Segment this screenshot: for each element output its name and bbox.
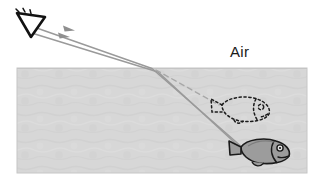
eye [16,8,45,37]
lower-ray-arrowhead [58,33,70,39]
upper-ray-arrowhead [63,26,75,32]
real-fish-pupil [279,147,281,149]
ray-direction-arrows [58,26,75,39]
refraction-figure: Air [0,0,320,177]
eye-outline-icon [17,13,45,37]
scene-diagram [0,0,320,177]
air-label: Air [230,44,249,59]
